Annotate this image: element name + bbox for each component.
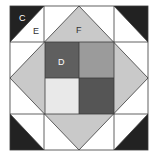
square-top-right — [79, 42, 114, 78]
square-bottom-right — [79, 78, 114, 114]
square-bottom-left — [45, 78, 79, 114]
quilt-block-diagram: C E F D — [0, 0, 154, 156]
label-e: E — [33, 26, 39, 36]
label-c: C — [19, 13, 26, 23]
label-d: D — [58, 57, 65, 67]
label-f: F — [76, 25, 82, 35]
